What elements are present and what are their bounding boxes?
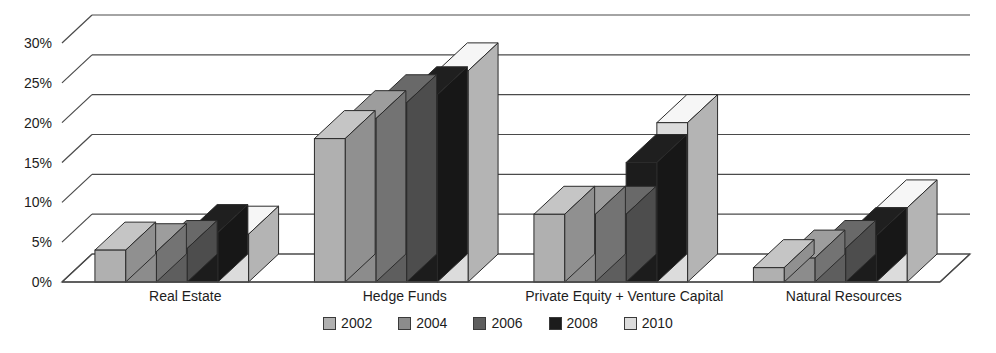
legend-item-2002[interactable]: 2002 — [323, 316, 372, 330]
grid-connector-15 — [62, 135, 92, 163]
grid-connector-10 — [62, 174, 92, 202]
bar-hedge-funds-2002 — [314, 111, 375, 282]
legend-item-2010[interactable]: 2010 — [624, 316, 673, 330]
legend-swatch-2006 — [473, 317, 486, 330]
x-axis-category-label-1: Hedge Funds — [363, 288, 447, 304]
legend-swatch-2002 — [323, 317, 336, 330]
legend-swatch-2010 — [624, 317, 637, 330]
legend-label-2008: 2008 — [567, 316, 598, 330]
grid-connector-30 — [62, 15, 92, 43]
legend-label-2002: 2002 — [341, 316, 372, 330]
y-axis-tick-label-0: 0% — [32, 274, 52, 290]
y-axis-tick-label-20: 20% — [24, 115, 52, 131]
y-axis-tick-label-10: 10% — [24, 194, 52, 210]
legend-label-2004: 2004 — [416, 316, 447, 330]
legend-swatch-2008 — [549, 317, 562, 330]
chart-legend: 20022004200620082010 — [0, 316, 996, 330]
grid-connector-5 — [62, 214, 92, 242]
x-axis-category-label-2: Private Equity + Venture Capital — [525, 288, 723, 304]
y-axis-tick-label-25: 25% — [24, 75, 52, 91]
legend-item-2008[interactable]: 2008 — [549, 316, 598, 330]
legend-swatch-2004 — [398, 317, 411, 330]
legend-item-2004[interactable]: 2004 — [398, 316, 447, 330]
x-axis-category-label-0: Real Estate — [149, 288, 222, 304]
bar-chart: 0%5%10%15%20%25%30%Real EstateHedge Fund… — [0, 0, 996, 353]
y-axis-tick-label-30: 30% — [24, 35, 52, 51]
x-axis-category-label-3: Natural Resources — [786, 288, 902, 304]
legend-label-2006: 2006 — [491, 316, 522, 330]
chart-canvas: 0%5%10%15%20%25%30%Real EstateHedge Fund… — [0, 0, 996, 353]
grid-connector-25 — [62, 55, 92, 83]
legend-label-2010: 2010 — [642, 316, 673, 330]
y-axis-tick-label-15: 15% — [24, 155, 52, 171]
y-axis-tick-label-5: 5% — [32, 234, 52, 250]
grid-connector-20 — [62, 95, 92, 123]
legend-item-2006[interactable]: 2006 — [473, 316, 522, 330]
floor-right-edge — [940, 254, 970, 282]
